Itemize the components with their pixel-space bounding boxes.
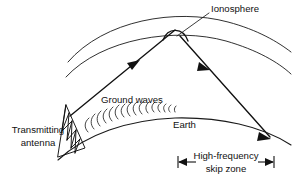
ground-wavelet <box>169 105 171 112</box>
ground-wavelet <box>91 114 95 129</box>
skip-zone-left-arrowhead-icon <box>178 158 187 166</box>
ionosphere-label: Ionosphere <box>211 3 259 14</box>
skip-zone-label-line1: High-frequency <box>193 150 258 161</box>
skip-zone-right-arrowhead-icon <box>265 158 274 166</box>
earth-label: Earth <box>173 119 196 130</box>
ground-wavelets-group <box>85 102 176 132</box>
ionosphere-diagram-canvas: Ionospheric skip propagation diagram <box>0 0 292 179</box>
antenna-tower-lattice <box>62 105 80 153</box>
ground-wavelet <box>164 104 166 112</box>
ground-wavelet <box>115 105 119 119</box>
ionosphere-upper-arc <box>68 16 291 62</box>
transmitting-antenna-label-line1: Transmitting <box>12 124 64 135</box>
skip-zone-label-line2: skip zone <box>206 163 247 174</box>
ionosphere-layer-group <box>66 16 291 77</box>
diagram-root: Ionospheric skip propagation diagram <box>0 0 292 179</box>
ionosphere-lower-arc <box>66 35 291 77</box>
ground-wavelet <box>109 107 113 121</box>
ground-wavelet <box>85 118 89 132</box>
ground-waves-label: Ground waves <box>101 94 163 105</box>
ground-wavelet <box>174 106 176 112</box>
ground-wavelet <box>121 104 125 117</box>
ground-wavelet <box>97 111 101 126</box>
transmitting-antenna-label-line2: antenna <box>21 137 56 148</box>
ground-wavelet <box>103 109 107 123</box>
